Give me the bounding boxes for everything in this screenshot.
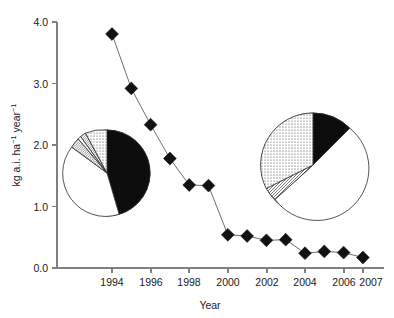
x-tick-label-2006: 2006	[332, 276, 356, 288]
data-point-2005	[318, 245, 331, 258]
data-point-1999	[202, 179, 215, 192]
x-tick-label-2002: 2002	[255, 276, 279, 288]
data-point-1996	[144, 118, 157, 131]
y-axis-title: kg a.i. ha−1 year−1	[9, 104, 22, 187]
svg-text:kg a.i. ha−1 year−1: kg a.i. ha−1 year−1	[9, 104, 22, 187]
inset-pie-left	[63, 130, 150, 217]
x-tick-label-1998: 1998	[177, 276, 201, 288]
y-axis-title-exp2: −1	[9, 104, 18, 112]
data-point-1995	[125, 82, 138, 95]
data-point-1998	[183, 179, 196, 192]
data-point-2000	[221, 228, 234, 241]
data-point-2003	[279, 233, 292, 246]
y-tick-label-4: 4.0	[33, 16, 48, 28]
y-axis-ticks: 4.0 3.0 2.0 1.0 0.0	[33, 16, 57, 274]
data-point-1994	[106, 28, 119, 41]
x-tick-label-1996: 1996	[139, 276, 163, 288]
figure-container: 4.0 3.0 2.0 1.0 0.0 1994 1996 1998 2000 …	[0, 0, 394, 318]
data-point-1997	[164, 152, 177, 165]
x-tick-label-2004: 2004	[293, 276, 317, 288]
data-point-2002	[260, 234, 273, 247]
chart-svg: 4.0 3.0 2.0 1.0 0.0 1994 1996 1998 2000 …	[0, 0, 394, 318]
data-point-2006	[337, 246, 350, 259]
x-tick-label-2000: 2000	[216, 276, 240, 288]
y-axis-title-base1: kg a.i. ha	[10, 144, 22, 187]
y-tick-label-0: 0.0	[33, 262, 48, 274]
y-axis-title-base2: year	[10, 112, 22, 136]
x-axis-ticks: 1994 1996 1998 2000 2002 2004 2006 2007	[100, 268, 383, 288]
y-tick-label-2: 2.0	[33, 139, 48, 151]
y-axis-title-exp1: −1	[9, 135, 18, 143]
data-point-2001	[241, 230, 254, 243]
data-point-2004	[299, 247, 312, 260]
inset-pie-right	[261, 113, 369, 220]
data-point-2007	[357, 251, 370, 264]
y-tick-label-1: 1.0	[33, 201, 48, 213]
x-axis-title: Year	[199, 299, 221, 311]
x-tick-label-1994: 1994	[100, 276, 124, 288]
x-tick-label-2007: 2007	[359, 276, 383, 288]
y-tick-label-3: 3.0	[33, 78, 48, 90]
